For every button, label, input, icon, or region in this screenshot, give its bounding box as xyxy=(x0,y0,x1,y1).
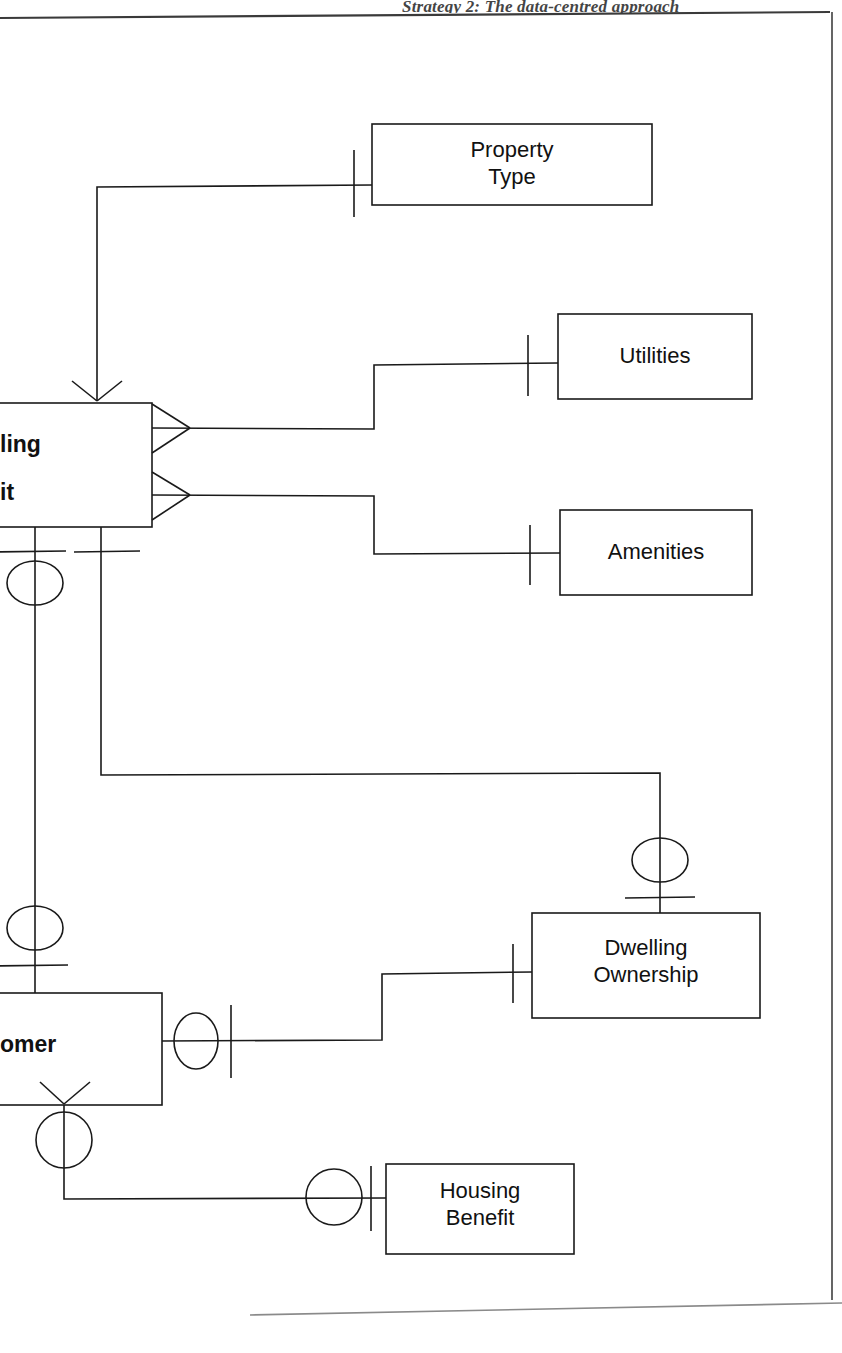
entity-box-housing-benefit xyxy=(386,1164,574,1254)
cardinality-bar-one-lower xyxy=(0,965,68,966)
relationship-dwelling-unit-property-type xyxy=(72,150,372,401)
crowsfoot-prong-left xyxy=(40,1082,64,1104)
cardinality-bar-one-at-dwelling-unit xyxy=(74,551,140,552)
crowsfoot-prong-lower xyxy=(152,428,190,453)
relationship-dwelling-unit-dwelling-ownership xyxy=(74,527,695,913)
entity-box-utilities xyxy=(558,314,752,399)
cardinality-bar-one-upper xyxy=(0,551,66,552)
crowsfoot-prong-right xyxy=(97,381,122,401)
connector-line xyxy=(152,363,558,429)
connector-line xyxy=(152,495,560,554)
entity-box-dwelling-unit xyxy=(0,403,152,527)
crowsfoot-prong-lower xyxy=(152,495,190,520)
crowsfoot-prong-left xyxy=(72,381,97,401)
cardinality-circle-optional-at-benefit xyxy=(306,1169,362,1225)
relationship-customer-dwelling-ownership xyxy=(162,944,532,1078)
page-rule-top xyxy=(0,12,830,18)
scanned-page: Strategy 2: The data-centred approach xyxy=(0,0,842,1353)
entity-box-dwelling-ownership xyxy=(532,913,760,1018)
entity-box-amenities xyxy=(560,510,752,595)
connector-line xyxy=(101,527,660,913)
crowsfoot-prong-upper xyxy=(152,472,190,495)
er-diagram xyxy=(0,0,842,1353)
entity-box-customer xyxy=(0,993,162,1105)
connector-line xyxy=(162,972,532,1041)
relationship-dwelling-unit-amenities xyxy=(152,472,560,585)
relationship-dwelling-unit-utilities xyxy=(152,335,558,453)
connector-line xyxy=(64,1105,386,1199)
connector-line xyxy=(97,185,372,400)
cardinality-bar-one-at-ownership xyxy=(625,897,695,898)
crowsfoot-prong-right xyxy=(64,1082,90,1104)
crowsfoot-prong-upper xyxy=(152,404,190,428)
entity-box-property-type xyxy=(372,124,652,205)
relationship-dwelling-unit-customer xyxy=(0,527,68,993)
page-rule-bottom xyxy=(250,1303,842,1315)
